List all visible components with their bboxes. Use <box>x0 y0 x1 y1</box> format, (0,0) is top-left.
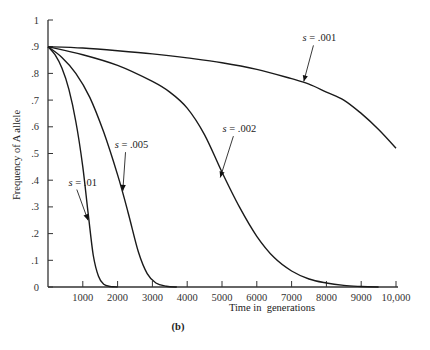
y-tick-label: .9 <box>31 41 39 52</box>
curve-01 <box>48 47 118 287</box>
curves <box>48 47 396 287</box>
x-tick-label: 1000 <box>72 292 93 303</box>
x-tick-label: 3000 <box>142 292 163 303</box>
y-tick-label: .4 <box>31 175 40 186</box>
x-tick-label: 4000 <box>177 292 198 303</box>
label-arrow <box>220 136 233 177</box>
x-axis: 10002000300040005000600070008000900010,0… <box>48 281 410 303</box>
curve-label: s = .005 <box>115 139 149 150</box>
y-tick-label: 0 <box>34 282 39 293</box>
x-tick-label: 9000 <box>351 292 372 303</box>
y-axis: 0.1.2.3.4.5.6.7.8.91 <box>31 15 53 293</box>
allele-frequency-chart: 0.1.2.3.4.5.6.7.8.91 1000200030004000500… <box>0 0 430 350</box>
y-tick-label: 1 <box>34 15 39 26</box>
curve-label: s = .01 <box>69 177 97 188</box>
y-tick-label: .7 <box>31 95 39 106</box>
x-tick-label: 2000 <box>107 292 128 303</box>
panel-label: (b) <box>172 321 185 333</box>
y-axis-title: Frequency of A allele <box>11 110 22 200</box>
y-tick-label: .5 <box>31 148 39 159</box>
curve-002 <box>48 47 379 287</box>
curve-label: s = .002 <box>223 123 257 134</box>
curve-label: s = .001 <box>303 32 337 43</box>
y-tick-label: .2 <box>31 228 39 239</box>
arrowhead-icon <box>84 214 89 221</box>
y-tick-label: .3 <box>31 201 39 212</box>
y-tick-label: .8 <box>31 68 39 79</box>
x-tick-label: 8000 <box>316 292 337 303</box>
x-axis-title: Time in generations <box>229 302 315 313</box>
y-tick-label: .6 <box>31 121 39 132</box>
x-tick-label: 10,000 <box>382 292 411 303</box>
y-tick-label: .1 <box>31 255 39 266</box>
